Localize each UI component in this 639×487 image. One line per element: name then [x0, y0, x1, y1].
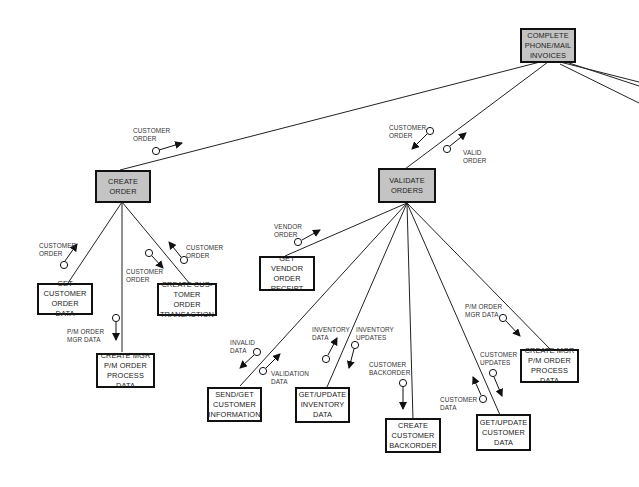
- couple-label-customer-data: CUSTOMER DATA: [440, 396, 477, 413]
- module-validate-orders: VALIDATE ORDERS: [378, 168, 436, 203]
- couple-label-customer-updates: CUSTOMER UPDATES: [480, 351, 517, 368]
- couple-label-pm-order-mgr-data: P/M ORDER MGR DATA: [67, 328, 104, 345]
- couple-label-inventory-data: INVENTORY DATA: [312, 326, 350, 343]
- couple-label-pm-order-mgr-data: P/M ORDER MGR DATA: [465, 303, 502, 320]
- couple-label-validation-data: VALIDATION DATA: [271, 370, 309, 387]
- couple-label-vendor-order: VENDOR ORDER: [274, 223, 302, 240]
- couple-label-customer-backorder: CUSTOMER BACKORDER: [369, 361, 410, 378]
- module-create-mgr-pm-order-process-data-2: CREATE MGR P/M ORDER PROCESS DATA: [520, 349, 579, 383]
- couple-label-valid-order: VALID ORDER: [463, 149, 487, 166]
- module-get-update-inventory-data: GET/UPDATE INVENTORY DATA: [295, 387, 350, 423]
- couple-label-customer-order: CUSTOMER ORDER: [126, 268, 163, 285]
- module-create-customer-backorder: CREATE CUSTOMER BACKORDER: [385, 418, 441, 453]
- structure-chart: COMPLETE PHONE/MAIL INVOICES CREATE ORDE…: [0, 0, 639, 487]
- module-send-get-customer-information: SEND/GET CUSTOMER INFORMATION: [207, 387, 262, 422]
- couple-label-customer-order: CUSTOMER ORDER: [389, 124, 426, 141]
- couple-label-inventory-updates: INVENTORY UPDATES: [356, 326, 394, 343]
- couple-label-customer-order: CUSTOMER ORDER: [186, 244, 223, 261]
- module-complete-phone-mail-invoices: COMPLETE PHONE/MAIL INVOICES: [520, 28, 576, 63]
- module-create-mgr-pm-order-process-data-1: CREATE MGR P/M ORDER PROCESS DATA: [96, 353, 155, 388]
- module-get-customer-order-data: GET CUSTOMER ORDER DATA: [37, 283, 93, 315]
- module-get-vendor-order-receipt: GET VENDOR ORDER RECEIPT: [259, 256, 315, 291]
- couple-label-invalid-data: INVALID DATA: [230, 339, 255, 356]
- couple-label-customer-order: CUSTOMER ORDER: [133, 127, 170, 144]
- module-create-order: CREATE ORDER: [95, 170, 151, 203]
- couple-label-customer-order: CUSTOMER ORDER: [39, 242, 76, 259]
- module-create-customer-order-transaction: CREATE CUS- TOMER ORDER TRANSACTION: [157, 283, 217, 316]
- module-get-update-customer-data: GET/UPDATE CUSTOMER DATA: [476, 414, 531, 451]
